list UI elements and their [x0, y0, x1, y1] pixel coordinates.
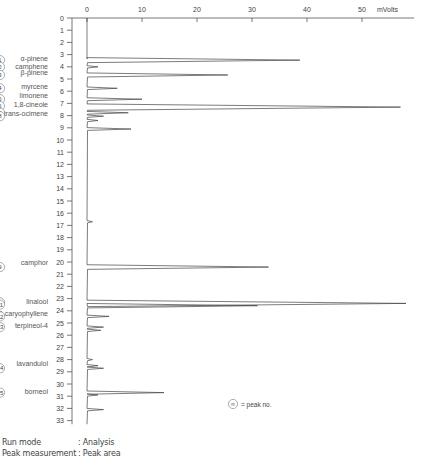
- compound-label: limonene: [20, 92, 49, 99]
- y-tick-label: 5: [60, 76, 64, 83]
- y-tick-label: 6: [60, 88, 64, 95]
- y-tick-label: 26: [56, 332, 64, 339]
- compound-label: camphor: [21, 259, 49, 267]
- chromatogram-chart: 01020304050mVolts01234567891011121314151…: [0, 0, 427, 440]
- legend-text: = peak no.: [241, 401, 272, 409]
- compound-label: lavandulol: [16, 360, 48, 367]
- peak-measurement-row: Peak measurement: Peak area: [2, 449, 120, 458]
- x-axis-unit-label: mVolts: [377, 6, 399, 13]
- y-tick-label: 16: [56, 210, 64, 217]
- y-tick-label: 10: [56, 137, 64, 144]
- y-tick-label: 20: [56, 259, 64, 266]
- y-tick-label: 15: [56, 198, 64, 205]
- legend-symbol: n: [231, 401, 234, 407]
- y-tick-label: 17: [56, 222, 64, 229]
- run-mode-key: Run mode: [2, 438, 78, 447]
- y-tick-label: 19: [56, 246, 64, 253]
- compound-label: myrcene: [21, 83, 48, 91]
- compound-label: 1,8-cineole: [14, 101, 48, 108]
- y-tick-label: 9: [60, 124, 64, 131]
- compound-label: borneol: [25, 388, 49, 395]
- compound-label: linalool: [26, 298, 48, 305]
- y-tick-label: 8: [60, 112, 64, 119]
- x-tick-label: 30: [248, 6, 256, 13]
- y-tick-label: 30: [56, 381, 64, 388]
- run-mode-value: : Analysis: [78, 438, 114, 447]
- compound-label: β-pinene: [21, 69, 48, 77]
- y-tick-label: 28: [56, 356, 64, 363]
- y-tick-label: 11: [57, 149, 64, 156]
- y-tick-label: 22: [56, 283, 64, 290]
- peak-measurement-value: : Peak area: [78, 449, 120, 458]
- peak-measurement-key: Peak measurement: [2, 449, 78, 458]
- y-tick-label: 14: [56, 185, 64, 192]
- y-tick-label: 4: [60, 63, 64, 70]
- compound-label: β-caryophyllene: [0, 310, 48, 318]
- y-tick-label: 32: [56, 405, 64, 412]
- y-tick-label: 25: [56, 320, 64, 327]
- y-tick-label: 1: [60, 27, 64, 34]
- y-tick-label: 7: [60, 100, 64, 107]
- y-tick-label: 31: [56, 393, 64, 400]
- x-tick-label: 50: [358, 6, 366, 13]
- x-tick-label: 0: [85, 6, 89, 13]
- y-tick-label: 33: [56, 417, 64, 424]
- x-tick-label: 40: [303, 6, 311, 13]
- compound-label: trans-ocimene: [4, 110, 48, 117]
- y-tick-label: 18: [56, 234, 64, 241]
- compound-label: terpineol-4: [15, 322, 48, 330]
- y-tick-label: 0: [60, 15, 64, 22]
- y-tick-label: 27: [56, 344, 64, 351]
- y-tick-label: 12: [56, 161, 64, 168]
- y-tick-label: 21: [56, 271, 64, 278]
- run-mode-row: Run mode: Analysis: [2, 438, 114, 447]
- y-tick-label: 2: [60, 39, 64, 46]
- x-tick-label: 10: [138, 6, 146, 13]
- y-tick-label: 24: [56, 307, 64, 314]
- y-tick-label: 13: [56, 173, 64, 180]
- x-tick-label: 20: [193, 6, 201, 13]
- y-tick-label: 23: [56, 295, 64, 302]
- y-tick-label: 3: [60, 51, 64, 58]
- y-tick-label: 29: [56, 368, 64, 375]
- chromatogram-trace: [87, 18, 406, 424]
